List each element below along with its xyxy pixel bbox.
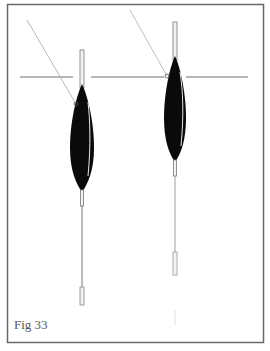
tube-left xyxy=(80,287,84,305)
figure-panel: Fig 33 xyxy=(0,0,270,351)
figure-frame xyxy=(8,5,264,343)
stem-left xyxy=(81,190,84,206)
antenna-left xyxy=(80,50,84,88)
tube-right xyxy=(173,252,177,275)
stem-right xyxy=(174,160,177,176)
antenna-right xyxy=(173,22,177,60)
float-right xyxy=(130,10,186,325)
figure-caption: Fig 33 xyxy=(14,317,48,333)
fishing-line-right xyxy=(130,10,167,76)
float-left xyxy=(27,20,94,305)
fishing-line-left xyxy=(27,20,76,104)
